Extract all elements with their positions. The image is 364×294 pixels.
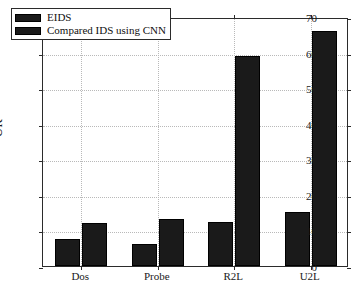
y-axis-tick-label: 20	[291, 190, 317, 201]
x-axis-tick-label: R2L	[223, 271, 243, 282]
y-axis-tick-label: 30	[291, 155, 317, 166]
legend-label: Compared IDS using CNN	[47, 25, 166, 36]
bar-dos-series-1	[55, 239, 80, 266]
y-axis-tick-mark	[347, 268, 351, 269]
legend-entry: Compared IDS using CNN	[15, 24, 166, 37]
y-axis-tick-mark	[347, 55, 351, 56]
figure-canvas: UR 010203040506070DosProbeR2LU2L EIDSCom…	[0, 0, 364, 294]
bar-probe-series-2	[159, 219, 184, 266]
y-axis-tick-label: 60	[291, 48, 317, 59]
legend-label: EIDS	[47, 12, 71, 23]
legend-swatch-icon	[15, 14, 41, 22]
y-axis-tick-mark	[39, 161, 43, 162]
y-axis-tick-mark	[347, 19, 351, 20]
y-axis-tick-mark	[347, 232, 351, 233]
y-axis-tick-mark	[39, 197, 43, 198]
bar-u2l-series-1	[285, 212, 310, 266]
y-axis-tick-mark	[347, 90, 351, 91]
chart-legend: EIDSCompared IDS using CNN	[11, 8, 171, 40]
y-axis-tick-label: 10	[291, 226, 317, 237]
legend-entry: EIDS	[15, 11, 166, 24]
x-axis-tick-label: U2L	[300, 271, 320, 282]
y-axis-tick-label: 70	[291, 13, 317, 24]
y-axis-tick-mark	[39, 232, 43, 233]
x-axis-tick-mark	[234, 15, 235, 19]
y-axis-tick-mark	[347, 197, 351, 198]
y-axis-tick-mark	[347, 126, 351, 127]
bar-r2l-series-2	[235, 56, 260, 266]
y-axis-tick-mark	[39, 90, 43, 91]
y-axis-tick-mark	[39, 55, 43, 56]
y-axis-tick-label: 40	[291, 119, 317, 130]
bar-probe-series-1	[132, 244, 157, 266]
bar-dos-series-2	[82, 223, 107, 266]
x-axis-tick-label: Probe	[144, 271, 170, 282]
y-axis-tick-mark	[39, 268, 43, 269]
y-axis-tick-mark	[347, 161, 351, 162]
bar-r2l-series-1	[208, 222, 233, 266]
legend-swatch-icon	[15, 27, 41, 35]
x-axis-tick-label: Dos	[71, 271, 89, 282]
y-axis-title: UR	[0, 119, 6, 138]
y-axis-tick-mark	[39, 126, 43, 127]
y-axis-tick-label: 50	[291, 84, 317, 95]
